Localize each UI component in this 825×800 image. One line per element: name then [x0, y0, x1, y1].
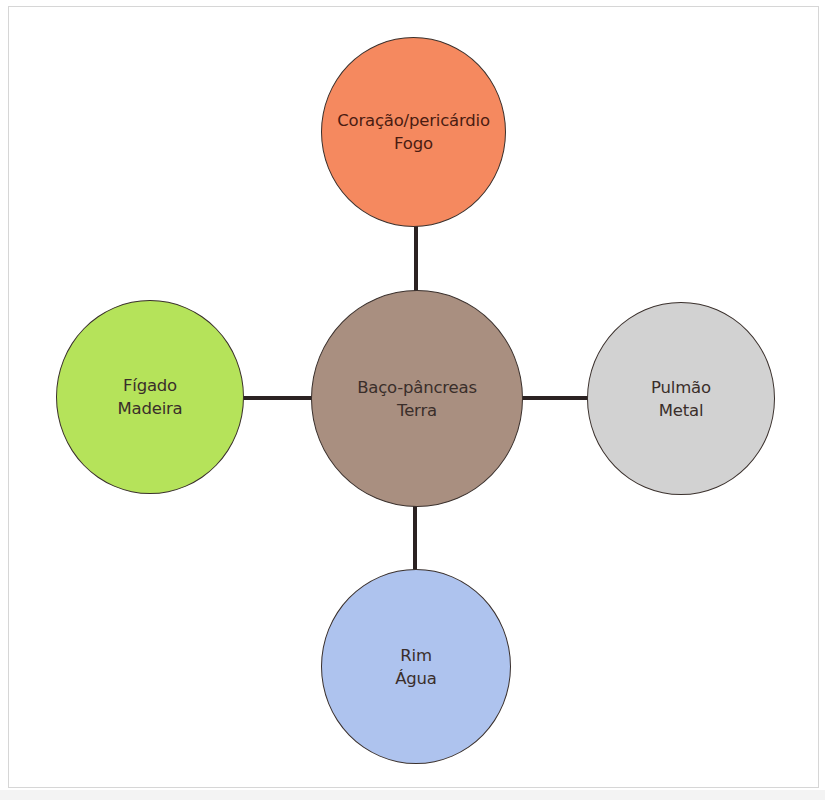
- connector-bottom: [413, 505, 417, 571]
- node-element-label: Metal: [659, 399, 704, 422]
- node-liver-wood: Fígado Madeira: [56, 300, 244, 494]
- node-organ-label: Rim: [400, 644, 432, 667]
- node-element-label: Fogo: [394, 132, 433, 155]
- node-spleen-earth: Baço-pâncreas Terra: [311, 290, 523, 507]
- node-element-label: Terra: [397, 399, 437, 422]
- node-element-label: Água: [395, 667, 437, 690]
- node-kidney-water: Rim Água: [321, 569, 511, 764]
- page-bottom-shade: [0, 790, 825, 800]
- node-organ-label: Coração/pericárdio: [337, 109, 490, 132]
- node-heart-fire: Coração/pericárdio Fogo: [321, 37, 506, 227]
- connector-right: [520, 396, 589, 400]
- node-organ-label: Baço-pâncreas: [357, 376, 477, 399]
- connector-top: [414, 226, 418, 292]
- node-lung-metal: Pulmão Metal: [587, 302, 775, 495]
- node-element-label: Madeira: [117, 397, 182, 420]
- node-organ-label: Pulmão: [651, 376, 711, 399]
- node-organ-label: Fígado: [123, 374, 177, 397]
- connector-left: [242, 396, 313, 400]
